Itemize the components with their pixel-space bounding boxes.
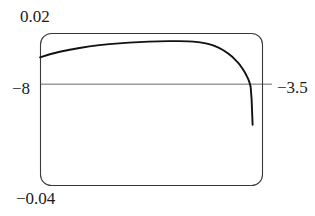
plot-canvas: [0, 0, 315, 216]
y-max-label: 0.02: [20, 8, 50, 25]
data-curve: [40, 41, 253, 125]
x-min-label: −8: [12, 80, 30, 97]
plot-frame: [41, 34, 263, 186]
plot-figure: 0.02 −0.04 −8 −3.5: [0, 0, 315, 216]
y-min-label: −0.04: [16, 190, 55, 207]
x-max-label: −3.5: [277, 79, 308, 96]
